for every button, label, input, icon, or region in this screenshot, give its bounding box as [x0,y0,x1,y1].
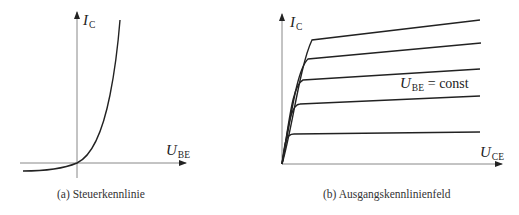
output-curve-5 [282,132,480,164]
diagram-canvas [0,0,519,215]
caption-b: (b) Ausgangskennlinienfeld [323,188,450,200]
figure-a-axes [20,12,186,178]
control-characteristic-curve [23,20,120,171]
figure-b-axes [282,14,502,164]
ube-const-annotation: UBE = const [400,75,469,93]
uce-label: UCE [480,144,504,162]
ic-label-a: IC [83,12,95,30]
ic-label-b: IC [290,14,302,32]
output-curve-4 [282,96,480,164]
caption-a: (a) Steuerkennlinie [57,188,145,200]
ube-label: UBE [166,142,190,160]
